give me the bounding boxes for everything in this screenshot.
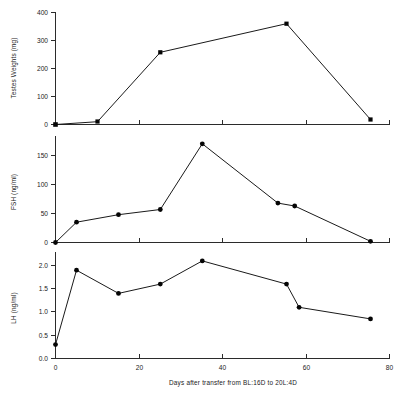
figure-container: 400 300 200 100 0 Testes Weights (mg) — [0, 0, 406, 394]
testes-y-axis-title: Testes Weights (mg) — [10, 38, 18, 99]
fsh-data-line — [56, 144, 371, 243]
panel-testes-weights: 400 300 200 100 0 Testes Weights (mg) — [10, 9, 390, 128]
testes-ytick-200: 200 — [37, 65, 48, 72]
fsh-data-points — [53, 141, 373, 245]
testes-ytick-300: 300 — [37, 37, 48, 44]
testes-ytick-0: 0 — [44, 121, 48, 128]
fsh-ytick-150: 150 — [37, 152, 48, 159]
xtick-60: 60 — [303, 364, 311, 371]
testes-ytick-400: 400 — [37, 9, 48, 16]
lh-data-line — [56, 261, 371, 345]
xtick-20: 20 — [136, 364, 144, 371]
testes-data-line — [56, 24, 371, 125]
testes-ytick-100: 100 — [37, 93, 48, 100]
panel-lh: 2.0 1.5 1.0 0.5 0.0 LH (ng/ml) — [10, 252, 393, 387]
fsh-ytick-0: 0 — [44, 239, 48, 246]
fsh-ytick-100: 100 — [37, 181, 48, 188]
testes-x-ticks — [56, 120, 390, 125]
panel-fsh: 150 100 50 0 FSH (ng/ml) — [10, 136, 390, 246]
three-panel-line-chart: 400 300 200 100 0 Testes Weights (mg) — [0, 0, 406, 394]
fsh-x-ticks — [56, 238, 390, 243]
xtick-40: 40 — [219, 364, 227, 371]
lh-x-ticks — [56, 354, 390, 359]
lh-ytick-1-0: 1.0 — [39, 308, 48, 315]
shared-x-tick-labels: 0 20 40 60 80 — [54, 364, 394, 371]
testes-y-ticks — [51, 13, 56, 125]
lh-ytick-0-0: 0.0 — [39, 355, 48, 362]
testes-data-points — [53, 22, 372, 127]
fsh-y-ticks — [51, 156, 56, 243]
xtick-80: 80 — [386, 364, 394, 371]
xtick-0: 0 — [54, 364, 58, 371]
x-axis-title: Days after transfer from BL:16D to 20L:4… — [169, 379, 297, 387]
lh-ytick-1-5: 1.5 — [39, 285, 48, 292]
lh-ytick-2-0: 2.0 — [39, 262, 48, 269]
lh-data-points — [53, 259, 373, 348]
fsh-ytick-50: 50 — [41, 210, 49, 217]
fsh-y-axis-title: FSH (ng/ml) — [10, 174, 18, 210]
lh-ytick-0-5: 0.5 — [39, 332, 48, 339]
lh-y-axis-title: LH (ng/ml) — [10, 292, 18, 323]
